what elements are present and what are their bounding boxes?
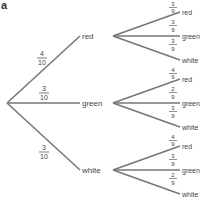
svg-text:4: 4 [40, 50, 44, 57]
svg-text:9: 9 [171, 46, 175, 52]
fraction-green-white: 3 9 [169, 105, 177, 119]
fraction-white-red: 4 9 [169, 134, 177, 147]
fraction-red-red: 3 9 [169, 1, 177, 14]
leaf-red-red: red [182, 9, 192, 16]
leaf-green-white: white [181, 124, 198, 131]
svg-text:10: 10 [40, 94, 48, 101]
svg-text:9: 9 [171, 74, 175, 80]
fraction-white: 3 10 [39, 144, 49, 160]
svg-text:3: 3 [171, 1, 175, 7]
svg-text:3: 3 [42, 144, 46, 151]
fraction-red: 4 10 [37, 50, 47, 66]
leaf-red-green: green [182, 33, 200, 41]
fraction-green-red: 4 9 [169, 67, 177, 80]
svg-text:9: 9 [171, 180, 175, 186]
svg-text:3: 3 [42, 85, 46, 92]
leaf-green-green: green [182, 100, 200, 108]
leaf-white-green: green [182, 167, 200, 175]
level2-branches-green [113, 79, 180, 127]
svg-text:3: 3 [171, 19, 175, 25]
node-green: green [82, 99, 102, 108]
fraction-red-green: 3 9 [169, 19, 177, 33]
node-white: white [81, 166, 101, 175]
part-label: a [1, 0, 8, 11]
svg-text:4: 4 [171, 134, 175, 140]
level2-branches-red [113, 12, 180, 60]
svg-text:2: 2 [171, 172, 175, 178]
svg-text:3: 3 [171, 153, 175, 159]
level2-branches-white [113, 146, 180, 194]
svg-text:9: 9 [171, 27, 175, 33]
svg-text:9: 9 [171, 94, 175, 100]
probability-tree-diagram: a red green white 4 10 3 10 3 10 red gre… [0, 0, 215, 206]
fraction-green-green: 2 9 [169, 86, 177, 100]
svg-text:3: 3 [171, 105, 175, 111]
fraction-red-white: 3 9 [169, 38, 177, 52]
svg-text:2: 2 [171, 86, 175, 92]
svg-text:10: 10 [40, 153, 48, 160]
svg-text:4: 4 [171, 67, 175, 73]
svg-text:9: 9 [171, 113, 175, 119]
leaf-red-white: white [181, 57, 198, 64]
node-red: red [82, 32, 94, 41]
fraction-white-white: 2 9 [169, 172, 177, 186]
svg-text:10: 10 [38, 59, 46, 66]
leaf-white-white: white [181, 191, 198, 198]
fraction-green: 3 10 [39, 85, 49, 101]
leaf-white-red: red [182, 143, 192, 150]
svg-text:3: 3 [171, 38, 175, 44]
svg-text:9: 9 [171, 161, 175, 167]
fraction-white-green: 3 9 [169, 153, 177, 167]
svg-text:9: 9 [171, 141, 175, 147]
leaf-green-red: red [182, 76, 192, 83]
